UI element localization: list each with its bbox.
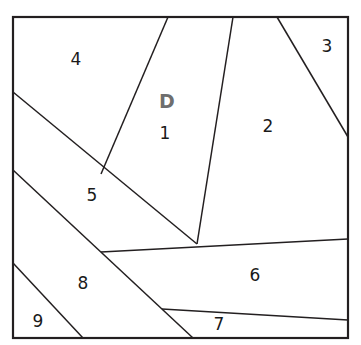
region-label-7: 7 — [214, 314, 225, 334]
region-label-9: 9 — [33, 311, 44, 331]
region-label-6: 6 — [250, 265, 261, 285]
region-label-5: 5 — [87, 185, 98, 205]
partition-diagram: 1 2 3 4 5 6 7 8 9 D — [0, 0, 361, 345]
partition-svg: 1 2 3 4 5 6 7 8 9 D — [0, 0, 361, 345]
region-label-1: 1 — [160, 123, 171, 143]
region-faces-group — [13, 17, 348, 338]
region-label-2: 2 — [263, 116, 274, 136]
marker-label-d: D — [159, 90, 175, 112]
region-label-8: 8 — [78, 273, 89, 293]
region-label-4: 4 — [71, 49, 82, 69]
region-label-3: 3 — [322, 36, 333, 56]
